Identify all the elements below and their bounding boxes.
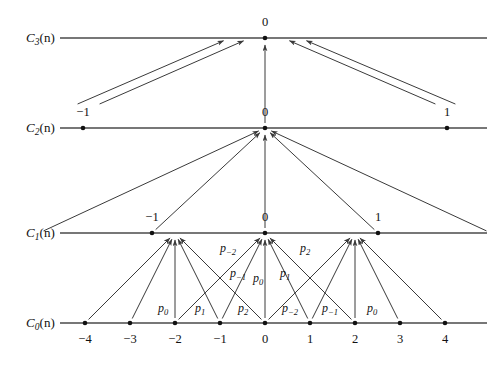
node-dot — [81, 126, 86, 131]
coefficient-label: p−1 — [322, 301, 338, 316]
node-dot — [443, 321, 448, 326]
coefficient-subscript: −2 — [226, 246, 236, 256]
node-dot — [263, 126, 268, 131]
coefficient-label: p0 — [253, 271, 263, 286]
node-dot — [263, 36, 268, 41]
node-dot — [150, 231, 155, 236]
node-dot — [445, 126, 450, 131]
tick-label-c0: 0 — [262, 332, 268, 347]
row-label-symbol: C — [26, 30, 35, 45]
row-label-symbol: C — [26, 315, 35, 330]
arrow-lines — [44, 41, 487, 320]
row-label-argument: (n) — [40, 30, 55, 45]
coefficient-label: p−1 — [230, 266, 246, 281]
coefficient-label: p2 — [238, 301, 248, 316]
tick-label-c0: 4 — [442, 332, 448, 347]
arrow-c1-to-c2 — [270, 133, 374, 230]
row-label-c2: C2(n) — [26, 120, 55, 136]
coefficient-subscript: 1 — [201, 306, 205, 316]
row-label-c3: C3(n) — [26, 30, 55, 46]
arrow-c2-to-c3 — [306, 41, 455, 104]
row-label-symbol: C — [26, 120, 35, 135]
node-label-c2: 0 — [262, 105, 268, 120]
node-dot — [376, 231, 381, 236]
tick-label-c0: −3 — [123, 332, 136, 347]
node-label-c3: 0 — [262, 15, 268, 30]
node-dot — [263, 321, 268, 326]
tick-label-c0: −2 — [168, 332, 181, 347]
node-label-c1: 0 — [262, 210, 268, 225]
tick-label-c0: 1 — [307, 332, 313, 347]
coefficient-label: p−2 — [282, 301, 298, 316]
coefficient-label: p−2 — [220, 241, 236, 256]
row-label-subscript: 3 — [35, 37, 40, 47]
coefficient-subscript: −2 — [288, 306, 298, 316]
node-dot — [263, 231, 268, 236]
axis-lines — [60, 38, 487, 323]
coefficient-label: p1 — [195, 301, 205, 316]
node-dot — [398, 321, 403, 326]
coefficient-subscript: 0 — [373, 306, 377, 316]
coefficient-subscript: 0 — [259, 276, 263, 286]
tick-label-c0: 3 — [397, 332, 403, 347]
tick-label-c0: −4 — [78, 332, 91, 347]
coefficient-label: p0 — [367, 301, 377, 316]
coefficient-subscript: 1 — [286, 271, 290, 281]
node-label-c2: 1 — [444, 105, 450, 120]
node-dot — [128, 321, 133, 326]
coefficient-label: p1 — [280, 266, 290, 281]
arrow-c2-to-c3 — [78, 41, 224, 104]
arrow-c2-to-c3 — [100, 41, 244, 104]
row-label-subscript: 2 — [35, 127, 40, 137]
node-dot — [173, 321, 178, 326]
arrow-c0-to-c1 — [358, 239, 398, 318]
coefficient-subscript: 2 — [306, 246, 310, 256]
arrow-c1-to-c2 — [156, 133, 260, 230]
row-label-subscript: 1 — [35, 232, 40, 242]
row-label-argument: (n) — [40, 120, 55, 135]
signal-flow-diagram: C3(n)C2(n)C1(n)C0(n) 0−101−101 −4−3−2−10… — [0, 0, 493, 368]
row-label-symbol: C — [26, 225, 35, 240]
node-dot — [308, 321, 313, 326]
node-dot — [218, 321, 223, 326]
coefficient-label: p0 — [158, 301, 168, 316]
tick-label-c0: 2 — [352, 332, 358, 347]
tick-label-c0: −1 — [213, 332, 226, 347]
node-label-c1: 1 — [375, 210, 381, 225]
coefficient-label: p2 — [300, 241, 310, 256]
node-dot — [83, 321, 88, 326]
row-label-c1: C1(n) — [26, 225, 55, 241]
node-label-c2: −1 — [76, 105, 89, 120]
node-dot — [353, 321, 358, 326]
node-label-c1: −1 — [145, 210, 158, 225]
coefficient-subscript: 2 — [244, 306, 248, 316]
row-label-subscript: 0 — [35, 322, 40, 332]
row-label-argument: (n) — [40, 225, 55, 240]
row-label-argument: (n) — [40, 315, 55, 330]
coefficient-subscript: −1 — [328, 306, 338, 316]
coefficient-subscript: 0 — [164, 306, 168, 316]
coefficient-subscript: −1 — [236, 271, 246, 281]
row-label-c0: C0(n) — [26, 315, 55, 331]
arrow-c2-to-c3 — [289, 41, 435, 104]
